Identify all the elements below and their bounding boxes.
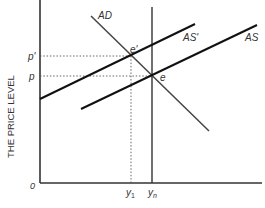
yn-label: yn [147,187,157,199]
e-prime-label: e' [130,44,139,55]
ad-as-diagram: THE PRICE LEVEL 0 p' p AD AS' AS e' e y1… [0,0,265,208]
y1-label: y1 [125,187,135,199]
as-label: AS [244,32,259,43]
e-label: e [160,72,166,83]
yn-sub: n [153,192,157,199]
ad-label: AD [97,10,112,21]
p-prime-label: p' [27,51,37,62]
y-axis-label: THE PRICE LEVEL [5,75,16,158]
p-label: p [28,71,35,82]
as-prime-label: AS' [182,32,199,43]
as-prime-curve [40,24,195,99]
origin-label: 0 [30,181,35,191]
y1-sub: 1 [131,192,135,199]
